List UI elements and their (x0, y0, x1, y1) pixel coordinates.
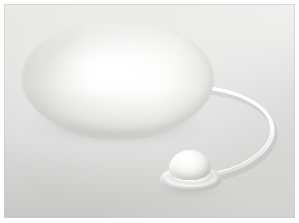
photograph-plate (4, 4, 295, 218)
egg-body-specular-highlight (58, 42, 154, 104)
dome-knob-highlight (175, 153, 192, 164)
photograph-frame (0, 0, 299, 223)
